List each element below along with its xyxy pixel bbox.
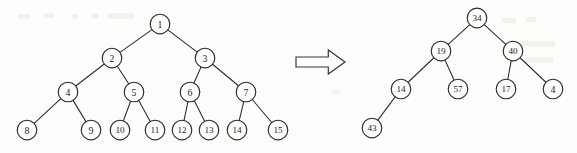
tree-edge-19-57: [445, 60, 454, 80]
left-node-5: 5: [124, 82, 144, 102]
tree-edge-6-12: [184, 102, 188, 121]
tree-edge-40-4: [520, 58, 546, 83]
left-node-11: 11: [145, 120, 165, 140]
left-node-8: 8: [17, 120, 37, 140]
left-node-15: 15: [268, 120, 288, 140]
node-label: 14: [232, 125, 242, 135]
right-node-43: 43: [362, 118, 382, 138]
left-node-1: 1: [150, 14, 170, 34]
diagram-canvas: 123456789101112131415 341940145717443: [0, 0, 577, 153]
tree-edge-19-14: [408, 58, 434, 83]
left-tree-edges: [34, 30, 272, 124]
tree-edge-14-43: [378, 97, 395, 120]
left-node-12: 12: [172, 120, 192, 140]
node-label: 5: [132, 87, 137, 98]
node-label: 13: [204, 125, 214, 135]
node-label: 17: [501, 84, 511, 94]
left-node-10: 10: [110, 120, 130, 140]
left-node-7: 7: [236, 82, 256, 102]
tree-edge-4-8: [34, 99, 61, 124]
node-label: 8: [25, 125, 30, 136]
tree-edge-4-9: [73, 100, 86, 121]
right-node-34: 34: [467, 8, 487, 28]
tree-edge-1-2: [120, 30, 152, 53]
right-node-17: 17: [496, 79, 516, 99]
arrow-right-icon: [296, 50, 345, 74]
right-node-4: 4: [543, 79, 563, 99]
tree-edge-3-7: [213, 64, 239, 85]
tree-edge-6-13: [194, 101, 204, 121]
node-label: 10: [115, 125, 125, 135]
tree-edge-3-6: [194, 67, 201, 83]
tree-transformation-figure: 123456789101112131415 341940145717443: [0, 0, 577, 153]
node-label: 12: [177, 125, 187, 135]
node-label: 9: [89, 125, 94, 136]
tree-edge-1-3: [168, 30, 197, 52]
left-node-2: 2: [102, 48, 122, 68]
tree-edge-40-17: [508, 61, 511, 80]
tree-edge-7-14: [239, 102, 243, 121]
left-node-4: 4: [58, 82, 78, 102]
node-label: 6: [188, 87, 193, 98]
node-label: 19: [436, 46, 446, 56]
tree-edge-5-11: [139, 101, 151, 122]
right-node-14: 14: [391, 79, 411, 99]
node-label: 14: [396, 84, 406, 94]
left-node-3: 3: [195, 48, 215, 68]
node-label: 11: [151, 125, 160, 135]
right-tree-nodes: 341940145717443: [362, 8, 563, 138]
node-label: 15: [273, 125, 283, 135]
left-node-13: 13: [199, 120, 219, 140]
node-label: 43: [367, 123, 377, 133]
right-node-40: 40: [503, 41, 523, 61]
tree-edge-34-19: [448, 25, 470, 45]
left-node-6: 6: [180, 82, 200, 102]
tree-edge-2-4: [76, 64, 105, 86]
tree-edge-5-10: [123, 101, 130, 121]
node-label: 1: [158, 19, 163, 30]
node-label: 7: [244, 87, 249, 98]
node-label: 40: [508, 46, 518, 56]
left-tree-nodes: 123456789101112131415: [17, 14, 288, 140]
node-label: 34: [472, 13, 482, 23]
right-tree-edges: [378, 25, 546, 121]
tree-edge-34-40: [484, 25, 506, 45]
tree-edge-2-5: [117, 66, 128, 84]
node-label: 3: [203, 53, 208, 64]
right-node-19: 19: [431, 41, 451, 61]
node-label: 4: [551, 84, 556, 95]
node-label: 57: [453, 84, 463, 94]
tree-edge-7-15: [252, 100, 271, 123]
left-node-9: 9: [81, 120, 101, 140]
node-label: 2: [110, 53, 115, 64]
transformation-arrow: [296, 50, 345, 74]
node-label: 4: [66, 87, 71, 98]
left-node-14: 14: [227, 120, 247, 140]
right-node-57: 57: [448, 79, 468, 99]
